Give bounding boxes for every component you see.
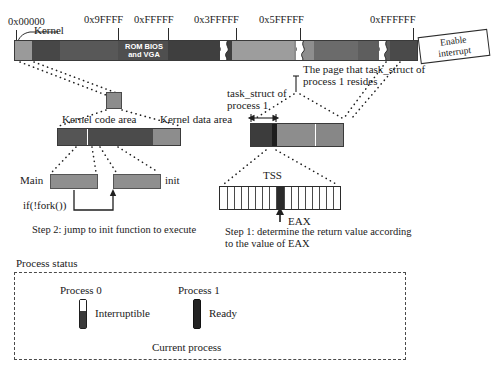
main-function-block bbox=[50, 174, 98, 189]
address-label-0xFFFFFF: 0xFFFFFF bbox=[370, 14, 416, 25]
address-label-0x5FFFFF: 0x5FFFFF bbox=[259, 14, 304, 25]
kernel-memory-chunk bbox=[106, 92, 122, 109]
page-note-leader bbox=[293, 76, 299, 92]
process-status-title: Process status bbox=[16, 258, 77, 270]
process-1-state-marker bbox=[193, 299, 201, 329]
fork-jump-arrow bbox=[74, 189, 116, 210]
kernel-data-area-label: Kernel data area bbox=[160, 114, 232, 126]
step1-caption-line1: Step 1: determine the return value accor… bbox=[225, 226, 412, 237]
task-struct-label-line2: process 1 bbox=[227, 100, 268, 112]
kernel-label: Kernel bbox=[34, 25, 64, 37]
tss-box bbox=[219, 186, 341, 210]
task-struct-label-line1: task_struct of bbox=[227, 88, 287, 100]
address-ticks bbox=[17, 28, 414, 40]
kernel-code-area-label: Kernel code area bbox=[62, 114, 137, 126]
dotted-kernelbar-to-functions bbox=[52, 147, 158, 172]
rom-bios-label-line2: and VGA bbox=[122, 51, 166, 60]
process-1-label: Process 1 bbox=[178, 285, 220, 297]
memory-segment-kernel bbox=[14, 40, 32, 61]
process-1-state-label: Ready bbox=[209, 308, 237, 320]
kernel-area-bar-outline bbox=[57, 128, 181, 146]
memory-segment-conventional bbox=[60, 40, 118, 61]
process-0-state-label: Interruptible bbox=[95, 308, 150, 320]
main-label: Main bbox=[20, 175, 43, 187]
memory-segment-low-mem bbox=[32, 40, 60, 61]
step1-caption-line2: to the value of EAX bbox=[225, 238, 310, 249]
memory-break-3 bbox=[379, 40, 393, 61]
memory-break-2 bbox=[296, 40, 310, 61]
memory-map-bar: ROM BIOS and VGA bbox=[14, 40, 418, 61]
current-process-label: Current process bbox=[152, 342, 221, 354]
dotted-expand-kernel bbox=[20, 62, 122, 95]
page-note-line1: The page that task_struct of bbox=[303, 64, 425, 76]
memory-segment-high-mem bbox=[390, 40, 418, 61]
tss-label: TSS bbox=[263, 170, 282, 182]
process-0-marker-bottom bbox=[80, 311, 86, 328]
step2-caption: Step 2: jump to init function to execute bbox=[32, 224, 196, 235]
address-label-0x9FFFF: 0x9FFFF bbox=[84, 14, 123, 25]
address-label-0xFFFFF: 0xFFFFF bbox=[134, 14, 174, 25]
process-1-marker-top bbox=[194, 300, 200, 328]
process1-page-bar bbox=[250, 123, 344, 147]
diagram-canvas: ROM BIOS and VGA 0x00000 0x9FFFF 0xFFFFF… bbox=[0, 0, 494, 370]
address-label-0x3FFFFF: 0x3FFFFF bbox=[194, 14, 239, 25]
process-0-marker-top bbox=[80, 300, 86, 311]
init-label: init bbox=[165, 175, 180, 187]
page-note-line2: process 1 resides bbox=[303, 76, 378, 88]
memory-break-1 bbox=[220, 40, 234, 61]
process-0-label: Process 0 bbox=[60, 285, 102, 297]
memory-segment-ext-mem-a bbox=[232, 40, 294, 61]
tss-eax-cell bbox=[277, 187, 284, 209]
kernel-area-bar bbox=[57, 128, 181, 146]
process-0-state-marker bbox=[79, 299, 87, 329]
page-bar-outline bbox=[250, 123, 344, 147]
task-struct-bracket bbox=[249, 114, 278, 122]
fork-condition-label: if(!fork()) bbox=[23, 200, 66, 212]
init-function-block bbox=[113, 174, 161, 189]
memory-segment-ext-mem-c bbox=[314, 40, 358, 61]
